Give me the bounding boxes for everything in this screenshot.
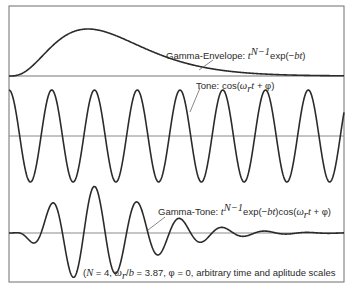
formula-exponent: N−1 bbox=[224, 202, 243, 213]
caption-ratio-text: = 3.87, φ = 0, arbitrary time and aplitu… bbox=[134, 267, 336, 278]
gammatone-label: Gamma-Tone: tN−1exp(−bt)cos(ωrt + φ) bbox=[158, 207, 331, 220]
gammatone-label-prefix: Gamma-Tone: bbox=[158, 206, 221, 217]
formula-close: ) bbox=[302, 50, 305, 61]
gammatone-figure bbox=[0, 0, 352, 294]
tone-label-prefix: Tone: bbox=[196, 80, 222, 91]
formula-cos: cos( bbox=[222, 80, 240, 91]
tone-label: Tone: cos(ωrt + φ) bbox=[196, 81, 274, 94]
envelope-label-prefix: Gamma-Envelope: bbox=[166, 50, 248, 61]
envelope-label: Gamma-Envelope: tN−1exp(−bt) bbox=[166, 51, 305, 62]
gammatone-curve bbox=[9, 186, 344, 277]
formula-exp: exp(− bbox=[243, 206, 267, 217]
formula-exponent: N−1 bbox=[251, 46, 270, 57]
formula-phase: + φ) bbox=[254, 80, 274, 91]
parameter-caption: (N = 4, ωr/b = 3.87, φ = 0, arbitrary ti… bbox=[83, 268, 336, 281]
caption-omega: ω bbox=[115, 267, 122, 278]
caption-N-value: = 4, bbox=[93, 267, 114, 278]
figure-frame bbox=[9, 6, 344, 282]
formula-omega: ω bbox=[296, 206, 303, 217]
formula-exp: exp(− bbox=[270, 50, 294, 61]
formula-phase: + φ) bbox=[311, 206, 331, 217]
formula-cos: )cos( bbox=[275, 206, 296, 217]
